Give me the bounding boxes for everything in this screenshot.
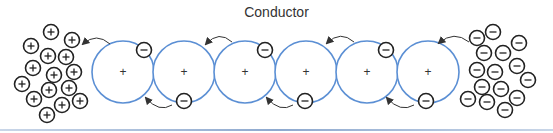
negative-charge [461, 92, 476, 107]
positive-charge [26, 61, 41, 76]
negative-charge [494, 82, 509, 97]
electron [419, 94, 434, 109]
electron-flow-arrow [387, 98, 414, 108]
electron [258, 43, 273, 58]
negative-charge [498, 103, 513, 118]
negative-charge [521, 73, 536, 88]
electron-flow-arrow [83, 38, 110, 44]
positive-charge [73, 94, 88, 109]
conductor-diagram: ++++++ [0, 0, 553, 133]
electron-flow-arrow [267, 98, 293, 108]
electron [137, 43, 152, 58]
positive-charge [59, 50, 74, 65]
positive-charge [44, 25, 59, 40]
negative-charge [470, 63, 485, 78]
negative-charge [486, 25, 501, 40]
positive-charge [24, 39, 39, 54]
negative-charge [496, 46, 511, 61]
electron-flow-arrow [206, 36, 232, 44]
nucleus-plus-label: + [241, 65, 248, 79]
positive-charge [67, 65, 82, 80]
positive-charge [62, 81, 77, 96]
negative-charge [477, 46, 492, 61]
positive-charge [65, 33, 80, 48]
nucleus-plus-label: + [119, 65, 126, 79]
negative-charge [510, 91, 525, 106]
electron [298, 94, 313, 109]
negative-charge [510, 59, 525, 74]
electron-flow-arrow [327, 36, 354, 43]
positive-charge [55, 98, 70, 113]
positive-charge [15, 77, 30, 92]
electron [379, 43, 394, 58]
negative-charge [475, 80, 490, 95]
nucleus-plus-label: + [180, 65, 187, 79]
negative-charge [512, 36, 527, 51]
bottom-divider [0, 129, 553, 131]
negative-charge [480, 95, 495, 110]
positive-charge [47, 68, 62, 83]
nucleus-plus-label: + [363, 65, 370, 79]
nucleus-plus-label: + [302, 65, 309, 79]
positive-charge [41, 49, 56, 64]
negative-charge [470, 31, 485, 46]
nucleus-plus-label: + [424, 65, 431, 79]
positive-charge [42, 83, 57, 98]
electron [177, 94, 192, 109]
electron-flow-arrow [439, 36, 469, 43]
negative-charge [488, 65, 503, 80]
positive-charge [40, 108, 55, 123]
positive-charge [27, 92, 42, 107]
